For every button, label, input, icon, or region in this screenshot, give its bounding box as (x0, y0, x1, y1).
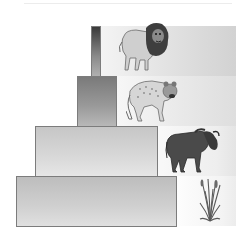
pyramid-block-primary-consumer (35, 126, 158, 177)
wildebeest-icon (165, 128, 221, 174)
hyena-icon (126, 79, 180, 123)
pyramid-block-secondary-consumer (77, 76, 117, 127)
grass-icon (198, 177, 222, 223)
pyramid-block-tertiary-consumer (91, 26, 101, 77)
pyramid-block-producer (16, 176, 177, 227)
top-divider (24, 3, 232, 4)
lion-icon (118, 22, 170, 72)
